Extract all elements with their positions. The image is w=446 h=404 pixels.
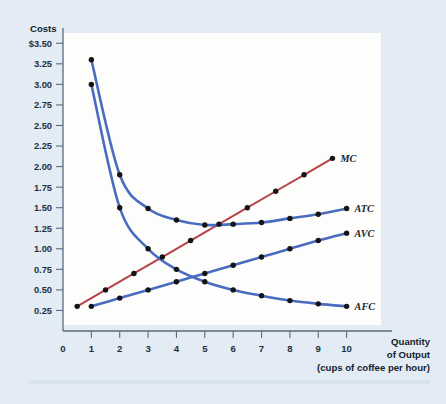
x-axis-title-line3: (cups of coffee per hour): [317, 362, 430, 373]
x-tick-label: 7: [259, 343, 264, 354]
curve-label-atc: ATC: [354, 203, 374, 214]
data-point-atc: [259, 220, 264, 225]
data-point-afc: [259, 293, 264, 298]
data-point-avc: [89, 304, 94, 309]
x-tick-label: 10: [341, 343, 352, 354]
data-point-atc: [145, 206, 150, 211]
data-point-mc: [301, 172, 306, 177]
curve-label-mc: MC: [339, 153, 356, 164]
data-point-atc: [287, 216, 292, 221]
y-tick-label: 2.25: [34, 141, 52, 151]
x-tick-label: 3: [145, 343, 150, 354]
y-tick-label: $3.50: [29, 39, 52, 49]
page-edge-shadow: [28, 380, 430, 384]
data-point-atc: [230, 221, 235, 226]
y-tick-label: 1.50: [34, 203, 52, 213]
data-point-avc: [344, 230, 349, 235]
y-tick-label: 2.00: [34, 162, 52, 172]
data-point-atc: [89, 57, 94, 62]
data-point-mc: [160, 254, 165, 259]
x-tick-label: 1: [89, 343, 95, 354]
curve-label-afc: AFC: [354, 301, 376, 312]
data-point-mc: [188, 238, 193, 243]
data-point-afc: [316, 301, 321, 306]
data-point-mc: [273, 189, 278, 194]
data-point-atc: [316, 212, 321, 217]
y-tick-label: 0.75: [34, 265, 52, 275]
x-tick-label: 0: [60, 343, 65, 354]
cost-curves-figure: 0.250.500.751.001.251.501.752.002.252.50…: [0, 0, 446, 404]
y-tick-label: 1.75: [34, 183, 52, 193]
data-point-atc: [202, 222, 207, 227]
data-point-afc: [344, 304, 349, 309]
y-axis-title: Costs: [30, 23, 57, 34]
data-point-atc: [117, 172, 122, 177]
data-point-avc: [174, 279, 179, 284]
data-point-afc: [174, 267, 179, 272]
data-point-avc: [259, 254, 264, 259]
data-point-avc: [287, 246, 292, 251]
x-tick-label: 5: [202, 343, 208, 354]
data-point-mc: [216, 221, 221, 226]
data-point-atc: [174, 217, 179, 222]
x-axis-title-line1: Quantity: [391, 336, 431, 347]
y-tick-label: 0.50: [34, 285, 52, 295]
y-tick-label: 2.75: [34, 100, 52, 110]
y-tick-label: 3.00: [34, 80, 52, 90]
x-axis-title-line2: of Output: [387, 349, 431, 360]
data-point-afc: [117, 205, 122, 210]
data-point-avc: [117, 295, 122, 300]
x-tick-label: 8: [287, 343, 293, 354]
data-point-mc: [103, 287, 108, 292]
data-point-mc: [74, 304, 79, 309]
curve-label-avc: AVC: [354, 228, 375, 239]
y-tick-label: 1.25: [34, 224, 52, 234]
y-tick-label: 1.00: [34, 244, 52, 254]
data-point-avc: [316, 238, 321, 243]
x-tick-label: 2: [117, 343, 122, 354]
data-point-mc: [330, 156, 335, 161]
data-point-afc: [145, 246, 150, 251]
data-point-afc: [89, 82, 94, 87]
x-tick-label: 9: [316, 343, 321, 354]
x-tick-label: 6: [231, 343, 236, 354]
data-point-avc: [145, 287, 150, 292]
data-point-afc: [202, 279, 207, 284]
data-point-afc: [230, 287, 235, 292]
y-tick-label: 3.25: [34, 59, 52, 69]
data-point-mc: [245, 205, 250, 210]
data-point-afc: [287, 298, 292, 303]
data-point-avc: [230, 263, 235, 268]
data-point-mc: [131, 271, 136, 276]
y-tick-label: 2.50: [34, 121, 52, 131]
data-point-avc: [202, 271, 207, 276]
x-tick-label: 4: [174, 343, 180, 354]
data-point-atc: [344, 206, 349, 211]
y-tick-label: 0.25: [34, 306, 52, 316]
